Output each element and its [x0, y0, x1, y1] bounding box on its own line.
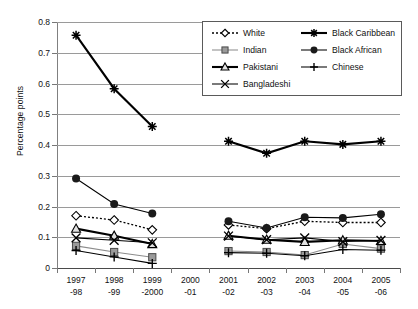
y-tick-label: 0.8: [20, 17, 50, 27]
y-tick-label: 0: [20, 263, 50, 273]
data-point: [72, 224, 81, 232]
data-point: [376, 137, 385, 146]
data-point: [148, 122, 157, 131]
x-tick-mark: [324, 268, 325, 273]
data-point: [377, 210, 385, 218]
data-point: [72, 211, 81, 220]
x-tick-mark: [248, 268, 249, 273]
legend-item-pakistani[interactable]: Pakistani: [210, 61, 278, 73]
legend-marker-diamond-open-icon: [210, 27, 240, 39]
legend-marker-circle-filled-icon: [299, 44, 329, 56]
data-point: [262, 149, 271, 158]
x-axis-line: [57, 268, 400, 269]
x-tick-label: 2005-06: [354, 275, 408, 298]
x-tick-mark: [95, 268, 96, 273]
data-point: [224, 137, 233, 146]
data-point: [72, 175, 80, 183]
x-tick-mark: [209, 268, 210, 273]
legend-label: Black Caribbean: [332, 28, 395, 38]
series-line: [76, 179, 152, 214]
chart-legend: WhiteIndianPakistaniBangladeshiBlack Car…: [202, 21, 402, 96]
data-point: [377, 218, 386, 227]
x-tick-mark: [400, 268, 401, 273]
data-point: [72, 31, 81, 40]
legend-label: White: [243, 28, 265, 38]
data-point: [300, 137, 309, 146]
y-tick-label: 0.7: [20, 48, 50, 58]
legend-item-indian[interactable]: Indian: [210, 44, 266, 56]
x-tick-mark: [362, 268, 363, 273]
series-chinese: [72, 245, 386, 268]
x-tick-label-line2: -06: [354, 287, 408, 299]
legend-marker-plus-icon: [299, 61, 329, 73]
legend-item-black-african[interactable]: Black African: [299, 44, 382, 56]
x-tick-mark: [171, 268, 172, 273]
y-tick-label: 0.6: [20, 79, 50, 89]
series-line: [76, 35, 152, 126]
chart-container: Percentage points 00.10.20.30.40.50.60.7…: [0, 0, 418, 309]
legend-label: Indian: [243, 45, 266, 55]
x-tick-mark: [133, 268, 134, 273]
y-tick-label: 0.1: [20, 232, 50, 242]
legend-label: Chinese: [332, 62, 364, 72]
data-point: [110, 216, 119, 225]
data-point: [148, 226, 157, 235]
data-point: [225, 217, 233, 225]
data-point: [110, 84, 119, 93]
x-tick-mark: [286, 268, 287, 273]
legend-item-bangladeshi[interactable]: Bangladeshi: [210, 78, 290, 90]
data-point: [301, 213, 309, 221]
data-point: [148, 210, 156, 218]
data-point: [338, 140, 347, 149]
legend-item-white[interactable]: White: [210, 27, 265, 39]
y-tick-label: 0.4: [20, 140, 50, 150]
y-tick-label: 0.2: [20, 202, 50, 212]
legend-marker-square-filled-icon: [210, 44, 240, 56]
y-tick-label: 0.3: [20, 171, 50, 181]
x-tick-mark: [57, 268, 58, 273]
legend-label: Black African: [332, 45, 382, 55]
data-point: [339, 214, 347, 222]
legend-marker-triangle-open-icon: [210, 61, 240, 73]
x-tick-label-line1: 2005: [354, 275, 408, 287]
legend-label: Pakistani: [243, 62, 278, 72]
series-black-african: [72, 175, 385, 233]
data-point: [263, 224, 271, 232]
legend-item-black-caribbean[interactable]: Black Caribbean: [299, 27, 395, 39]
legend-item-chinese[interactable]: Chinese: [299, 61, 364, 73]
data-point: [110, 200, 118, 208]
y-tick-label: 0.5: [20, 109, 50, 119]
legend-label: Bangladeshi: [243, 79, 290, 89]
legend-marker-cross-x-icon: [210, 78, 240, 90]
legend-marker-asterisk-icon: [299, 27, 329, 39]
